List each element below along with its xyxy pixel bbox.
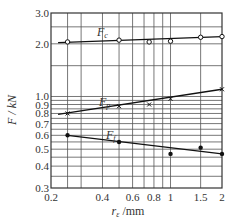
x-axis-label: rε /mm xyxy=(112,204,145,219)
series-label-fp: Fp xyxy=(98,95,110,110)
y-axis-label: F / kN xyxy=(5,94,19,126)
series-label-ff: Ff xyxy=(105,128,117,143)
marker-open-circle xyxy=(168,39,172,43)
y-tick-label: 0.5 xyxy=(35,143,49,155)
marker-filled-circle xyxy=(117,140,121,144)
marker-open-circle xyxy=(117,38,121,42)
y-tick-label: 0.3 xyxy=(35,182,49,194)
marker-open-circle xyxy=(65,40,69,44)
x-tick-label: 1.5 xyxy=(194,191,208,203)
x-tick-label: 0.6 xyxy=(126,191,140,203)
x-tick-label: 2 xyxy=(219,191,225,203)
x-tick-label: 1 xyxy=(168,191,174,203)
fit-line-fc xyxy=(58,37,222,43)
y-tick-label: 2.0 xyxy=(35,38,49,50)
marker-open-circle xyxy=(220,34,224,38)
y-tick-label: 3.0 xyxy=(35,7,49,19)
x-tick-label: 0.8 xyxy=(147,191,161,203)
log-log-chart: 0.20.40.60.811.520.30.40.50.60.70.80.91.… xyxy=(0,0,231,221)
marker-filled-circle xyxy=(65,133,69,137)
y-tick-label: 0.4 xyxy=(35,160,49,172)
fit-line-ff xyxy=(68,135,222,154)
y-tick-label: 0.6 xyxy=(35,129,49,141)
fit-line-fp xyxy=(58,89,222,114)
chart-container: 0.20.40.60.811.520.30.40.50.60.70.80.91.… xyxy=(0,0,231,221)
marker-open-circle xyxy=(198,35,202,39)
marker-filled-circle xyxy=(220,152,224,156)
marker-open-circle xyxy=(147,40,151,44)
y-tick-label: 1.0 xyxy=(35,90,49,102)
marker-filled-circle xyxy=(168,152,172,156)
marker-filled-circle xyxy=(198,145,202,149)
x-tick-label: 0.4 xyxy=(96,191,110,203)
